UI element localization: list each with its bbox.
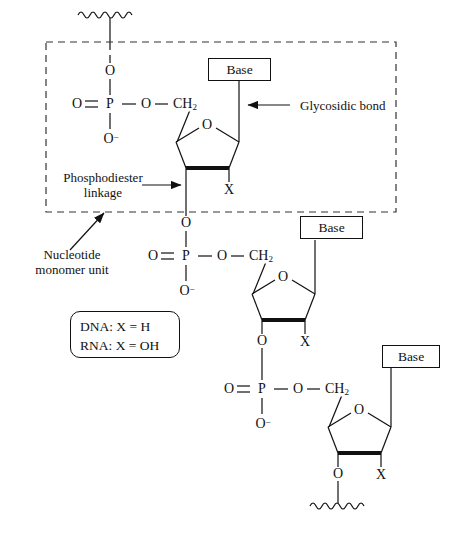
atom-ch2-2: CH2 (248, 249, 274, 264)
atom-o-minus-3: O− (254, 417, 271, 431)
atom-ring-o-2: O (277, 270, 289, 284)
atom-o-minus-1: O− (102, 132, 119, 146)
atom-o-link-3: O (332, 467, 344, 481)
atom-x-1: X (223, 183, 235, 197)
legend-rna-line: RNA: X = OH (80, 336, 170, 355)
atom-o-double-1: O (71, 97, 83, 111)
atom-o-double-3: O (223, 382, 235, 396)
phosphate-group-1 (85, 55, 168, 129)
atom-p-3: P (257, 382, 267, 396)
phosphodiester-linkage-line1: Phosphodiester (58, 170, 148, 185)
nucleotide-label-line1: Nucleotide (20, 247, 124, 262)
phosphodiester-linkage-line2: linkage (58, 185, 148, 200)
legend-dna-line: DNA: X = H (80, 317, 170, 336)
atom-o-bridge-2: O (180, 216, 192, 230)
phosphodiester-linkage-label: Phosphodiester linkage (58, 170, 148, 201)
atom-ch2-3: CH2 (324, 382, 350, 397)
atom-o-ester-2: O (216, 249, 228, 263)
nucleotide-monomer-unit-arrow (70, 213, 104, 250)
phosphate-group-3 (237, 371, 320, 414)
bottom-terminus-squiggle-icon (310, 503, 364, 509)
atom-x-3: X (375, 468, 387, 482)
atom-x-2: X (299, 335, 311, 349)
atom-ring-o-1: O (201, 118, 213, 132)
atom-ch2-1: CH2 (172, 97, 198, 112)
figure-canvas: O O P O O− CH2 O X O O P O O− CH2 O O X … (0, 0, 458, 536)
atom-o-bridge-1: O (104, 64, 116, 78)
atom-o-ester-1: O (140, 97, 152, 111)
atom-o-minus-2: O− (178, 284, 195, 298)
base-box-1[interactable]: Base (208, 58, 271, 81)
atom-o-link-2: O (256, 334, 268, 348)
atom-o-double-2: O (147, 249, 159, 263)
atom-ring-o-3: O (353, 403, 365, 417)
nucleotide-monomer-unit-label: Nucleotide monomer unit (20, 247, 124, 278)
atom-p-1: P (105, 97, 115, 111)
phosphate-group-2 (161, 231, 244, 281)
top-terminus-squiggle-icon (78, 12, 132, 50)
dna-rna-legend-box: DNA: X = H RNA: X = OH (70, 311, 180, 358)
base-box-3[interactable]: Base (382, 345, 440, 368)
glycosidic-bond-label: Glycosidic bond (300, 98, 386, 113)
atom-o-ester-3: O (292, 382, 304, 396)
atom-p-2: P (181, 249, 191, 263)
base-box-2[interactable]: Base (300, 216, 363, 239)
nucleotide-label-line2: monomer unit (20, 262, 124, 277)
